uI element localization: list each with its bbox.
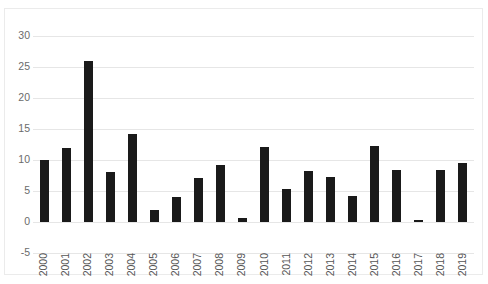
x-axis-tick-label: 2014 (347, 253, 358, 276)
bar (414, 220, 423, 222)
bar (172, 197, 181, 222)
bar (238, 218, 247, 222)
x-axis-tick-label: 2011 (281, 253, 292, 276)
bar (304, 171, 313, 222)
y-axis-tick-label: -5 (4, 247, 30, 257)
x-axis-tick-label: 2001 (60, 253, 71, 276)
y-axis: 302520151050-5 (0, 36, 30, 253)
y-axis-tick-label: 0 (4, 216, 30, 226)
y-axis-tick-label: 30 (4, 30, 30, 40)
y-axis-tick-label: 10 (4, 154, 30, 164)
x-axis-tick-label: 2013 (325, 253, 336, 276)
x-axis-tick-label: 2015 (369, 253, 380, 276)
bar (62, 148, 71, 222)
bar (436, 170, 445, 222)
bar (282, 189, 291, 222)
bar (370, 146, 379, 222)
x-axis-tick-label: 2008 (214, 253, 225, 276)
bar (260, 147, 269, 222)
bar (458, 163, 467, 222)
x-axis-tick-label: 2009 (236, 253, 247, 276)
bar (40, 160, 49, 222)
x-axis-tick-label: 2006 (170, 253, 181, 276)
x-axis-tick-label: 2000 (38, 253, 49, 276)
y-axis-tick-label: 5 (4, 185, 30, 195)
bar (326, 177, 335, 222)
bar (194, 178, 203, 222)
x-axis-tick-label: 2007 (192, 253, 203, 276)
bar (392, 170, 401, 222)
x-axis-tick-label: 2017 (413, 253, 424, 276)
y-axis-tick-label: 15 (4, 123, 30, 133)
x-axis-tick-label: 2002 (82, 253, 93, 276)
x-axis-tick-label: 2010 (259, 253, 270, 276)
x-axis: 2000200120022003200420052006200720082009… (33, 253, 474, 283)
bar (150, 210, 159, 222)
bar (106, 172, 115, 222)
bars-layer (33, 36, 474, 253)
bar (348, 196, 357, 222)
x-axis-tick-label: 2003 (104, 253, 115, 276)
bar (216, 165, 225, 222)
y-axis-tick-label: 25 (4, 61, 30, 71)
bar-chart: 302520151050-5 2000200120022003200420052… (0, 0, 488, 284)
x-axis-tick-label: 2004 (126, 253, 137, 276)
y-axis-tick-label: 20 (4, 92, 30, 102)
x-axis-tick-label: 2012 (303, 253, 314, 276)
x-axis-tick-label: 2018 (435, 253, 446, 276)
bar (84, 61, 93, 222)
x-axis-tick-label: 2005 (148, 253, 159, 276)
x-axis-tick-label: 2019 (457, 253, 468, 276)
bar (128, 134, 137, 222)
x-axis-tick-label: 2016 (391, 253, 402, 276)
